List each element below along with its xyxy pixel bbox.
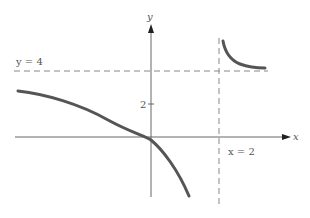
x-axis-arrow-icon (282, 134, 291, 140)
y-axis-label: y (146, 11, 153, 22)
vertical-asymptote-label: x = 2 (228, 146, 255, 157)
y-tick-label-2: 2 (140, 99, 146, 110)
x-axis-label: x (293, 131, 299, 142)
right-branch-curve (223, 41, 265, 68)
y-axis-arrow-icon (148, 24, 154, 33)
horizontal-asymptote-label: y = 4 (15, 56, 43, 67)
function-graph: y x 2 y = 4 x = 2 (0, 0, 310, 218)
left-branch-curve (18, 91, 189, 196)
